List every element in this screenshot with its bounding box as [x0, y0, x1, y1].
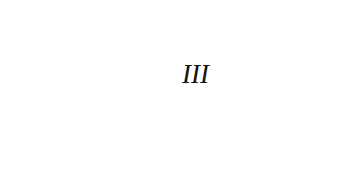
roman-numeral-label: III	[182, 58, 209, 90]
page: III	[0, 0, 340, 178]
